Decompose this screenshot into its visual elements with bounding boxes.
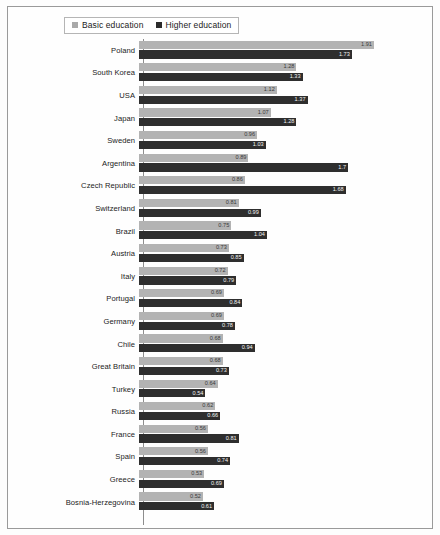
category-label: Turkey bbox=[8, 385, 139, 394]
chart-row: Argentina0.891.7 bbox=[8, 152, 434, 175]
category-label: Great Britain bbox=[8, 362, 139, 371]
bar-value-label: 1.07 bbox=[258, 110, 271, 116]
bar-basic: 0.56 bbox=[139, 425, 208, 433]
chart-row: Brazil0.751.04 bbox=[8, 220, 434, 243]
bar-value-label: 0.61 bbox=[201, 504, 214, 510]
legend-label-higher: Higher education bbox=[166, 20, 232, 30]
bar-group: 0.730.85 bbox=[139, 242, 434, 265]
bar-basic: 0.62 bbox=[139, 402, 215, 410]
bar-value-label: 0.73 bbox=[216, 368, 229, 374]
bar-value-label: 0.56 bbox=[195, 449, 208, 455]
bar-basic: 0.81 bbox=[139, 199, 239, 207]
bar-group: 0.810.99 bbox=[139, 197, 434, 220]
bar-group: 0.640.54 bbox=[139, 378, 434, 401]
bar-basic: 0.53 bbox=[139, 470, 204, 478]
bar-value-label: 0.68 bbox=[210, 336, 223, 342]
category-label: Spain bbox=[8, 452, 139, 461]
chart-row: Bosnia-Herzegovina0.520.61 bbox=[8, 491, 434, 514]
bar-higher: 1.68 bbox=[139, 186, 346, 194]
chart-row: Austria0.730.85 bbox=[8, 242, 434, 265]
bar-value-label: 1.37 bbox=[295, 97, 308, 103]
bar-higher: 0.81 bbox=[139, 434, 239, 442]
bar-group: 1.911.73 bbox=[139, 39, 434, 62]
chart-row: Chile0.680.94 bbox=[8, 333, 434, 356]
category-label: Russia bbox=[8, 407, 139, 416]
bar-basic: 0.86 bbox=[139, 176, 245, 184]
bar-higher: 0.73 bbox=[139, 367, 229, 375]
bar-basic: 0.68 bbox=[139, 357, 223, 365]
bar-value-label: 1.73 bbox=[339, 52, 352, 58]
category-label: Czech Republic bbox=[8, 181, 139, 190]
category-label: Greece bbox=[8, 475, 139, 484]
chart-page: Basic education Higher education Poland1… bbox=[0, 0, 440, 535]
bar-higher: 0.94 bbox=[139, 344, 255, 352]
bar-value-label: 0.79 bbox=[223, 278, 236, 284]
bar-group: 0.861.68 bbox=[139, 175, 434, 198]
bar-value-label: 0.85 bbox=[231, 255, 244, 261]
bar-basic: 0.89 bbox=[139, 154, 248, 162]
chart-frame: Basic education Higher education Poland1… bbox=[7, 6, 433, 529]
bar-higher: 1.7 bbox=[139, 163, 348, 171]
chart-row: Switzerland0.810.99 bbox=[8, 197, 434, 220]
bar-value-label: 1.28 bbox=[284, 119, 297, 125]
bar-group: 0.690.78 bbox=[139, 310, 434, 333]
bar-value-label: 0.69 bbox=[211, 290, 224, 296]
bar-higher: 1.33 bbox=[139, 73, 303, 81]
legend-swatch-icon-basic bbox=[72, 22, 78, 28]
category-label: South Korea bbox=[8, 68, 139, 77]
bar-value-label: 1.03 bbox=[253, 142, 266, 148]
category-label: Switzerland bbox=[8, 204, 139, 213]
bar-value-label: 0.64 bbox=[205, 381, 218, 387]
bar-value-label: 0.56 bbox=[195, 426, 208, 432]
bar-basic: 1.28 bbox=[139, 63, 296, 71]
bar-group: 0.680.94 bbox=[139, 333, 434, 356]
bar-higher: 0.54 bbox=[139, 389, 205, 397]
bar-value-label: 0.69 bbox=[211, 481, 224, 487]
bar-group: 0.530.69 bbox=[139, 468, 434, 491]
bar-value-label: 0.54 bbox=[193, 391, 206, 397]
bar-value-label: 0.69 bbox=[211, 313, 224, 319]
bar-value-label: 0.62 bbox=[202, 403, 215, 409]
legend-item-basic-education: Basic education bbox=[72, 20, 144, 30]
bar-value-label: 1.91 bbox=[361, 42, 374, 48]
bar-group: 0.520.61 bbox=[139, 491, 434, 514]
category-label: Germany bbox=[8, 317, 139, 326]
bar-higher: 0.85 bbox=[139, 254, 244, 262]
bar-group: 0.560.81 bbox=[139, 423, 434, 446]
bar-higher: 1.04 bbox=[139, 231, 267, 239]
bar-basic: 0.96 bbox=[139, 131, 257, 139]
chart-row: Greece0.530.69 bbox=[8, 468, 434, 491]
bar-basic: 0.56 bbox=[139, 447, 208, 455]
bar-basic: 0.73 bbox=[139, 244, 229, 252]
category-label: Argentina bbox=[8, 159, 139, 168]
bar-value-label: 0.86 bbox=[232, 177, 245, 183]
category-label: Chile bbox=[8, 340, 139, 349]
chart-row: Italy0.720.79 bbox=[8, 265, 434, 288]
bar-basic: 1.07 bbox=[139, 108, 271, 116]
bar-value-label: 1.7 bbox=[338, 165, 348, 171]
bar-group: 0.560.74 bbox=[139, 446, 434, 469]
bar-group: 0.680.73 bbox=[139, 355, 434, 378]
category-label: Brazil bbox=[8, 227, 139, 236]
bar-basic: 0.72 bbox=[139, 267, 228, 275]
chart-legend: Basic education Higher education bbox=[64, 17, 239, 34]
bar-value-label: 0.81 bbox=[226, 200, 239, 206]
bar-value-label: 0.73 bbox=[216, 245, 229, 251]
chart-row: Turkey0.640.54 bbox=[8, 378, 434, 401]
chart-row: Sweden0.961.03 bbox=[8, 129, 434, 152]
bar-group: 0.720.79 bbox=[139, 265, 434, 288]
bar-value-label: 1.12 bbox=[264, 87, 277, 93]
bar-value-label: 1.68 bbox=[333, 187, 346, 193]
category-label: Portugal bbox=[8, 294, 139, 303]
bar-value-label: 0.99 bbox=[248, 210, 261, 216]
bar-higher: 0.69 bbox=[139, 480, 224, 488]
bar-value-label: 0.94 bbox=[242, 345, 255, 351]
bar-higher: 0.99 bbox=[139, 209, 261, 217]
chart-row: Japan1.071.28 bbox=[8, 107, 434, 130]
bar-value-label: 1.33 bbox=[290, 74, 303, 80]
bar-basic: 0.69 bbox=[139, 289, 224, 297]
category-label: Austria bbox=[8, 249, 139, 258]
bar-higher: 0.78 bbox=[139, 322, 235, 330]
bar-higher: 1.37 bbox=[139, 96, 308, 104]
bar-group: 0.690.84 bbox=[139, 288, 434, 311]
